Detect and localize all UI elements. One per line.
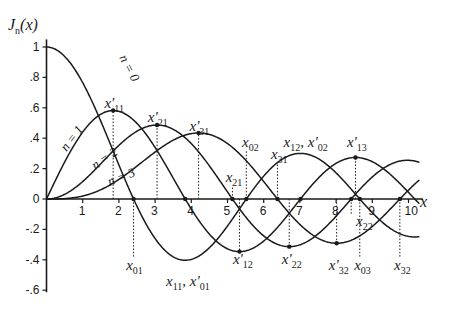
point-label: x'12 <box>232 251 253 270</box>
bessel-function-chart: 123456789101.8.6.4.20-.2-.4-.6 n = 0n = … <box>0 0 449 309</box>
x-tick-label: 1 <box>79 204 86 218</box>
point-label: x21 <box>225 169 243 188</box>
point-label: x12, x'02 <box>283 134 328 153</box>
curve-label-n3: n = 3 <box>105 164 137 189</box>
y-tick-label: -.2 <box>25 222 39 236</box>
marker-dot <box>287 244 291 248</box>
point-labels: n = 0n = 1n = 2n = 3x'11x'21x'31x01x02x0… <box>57 52 411 292</box>
y-tick-label: -.6 <box>25 283 39 297</box>
x-tick-label: 9 <box>368 204 375 218</box>
x-tick-label: 8 <box>332 204 339 218</box>
point-label: x'13 <box>346 134 367 153</box>
point-label: x01 <box>125 257 143 276</box>
point-label: x02 <box>241 134 259 153</box>
y-tick-label: 1 <box>33 40 40 54</box>
x-tick-label: 2 <box>115 204 122 218</box>
x-tick-label: 7 <box>296 204 303 218</box>
x-tick-label: 4 <box>187 204 194 218</box>
y-tick-label: .6 <box>29 101 39 115</box>
y-tick-label: -.4 <box>25 253 39 267</box>
y-tick-label: 0 <box>33 192 40 206</box>
x-tick-label: 3 <box>151 204 158 218</box>
point-label: x'32 <box>328 257 349 276</box>
point-label: x32 <box>393 257 411 276</box>
marker-dot <box>334 241 338 245</box>
x-tick-label: 5 <box>224 204 231 218</box>
x-tick-label: 6 <box>260 204 267 218</box>
point-label: x11, x'01 <box>165 273 210 292</box>
point-label: x03 <box>353 257 371 276</box>
y-tick-label: .2 <box>29 162 39 176</box>
y-tick-label: .8 <box>29 70 39 84</box>
y-tick-label: .4 <box>29 131 39 145</box>
marker-dot <box>353 155 357 159</box>
y-axis-title: Jn(x) <box>8 16 38 36</box>
curve-label-n0: n = 0 <box>116 52 143 84</box>
x-axis-title: x <box>419 193 427 210</box>
x-tick-label: 10 <box>405 204 419 218</box>
axes: 123456789101.8.6.4.20-.2-.4-.6 <box>25 39 422 297</box>
curve-label-n1: n = 1 <box>57 122 86 154</box>
point-label: x'22 <box>281 251 302 270</box>
